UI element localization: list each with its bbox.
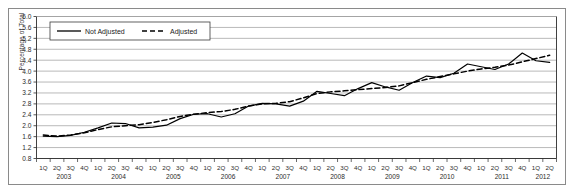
x-axis-quarter-label: 2Q: [436, 164, 444, 171]
y-axis-tick-label: 5.6: [22, 24, 31, 31]
plot-area: 0.81.21.62.02.42.83.23.64.04.44.85.25.66…: [0, 0, 574, 193]
x-axis-quarter-label: 3Q: [340, 164, 348, 171]
x-axis-year-label: 2006: [221, 173, 236, 180]
x-axis-quarter-label: 1Q: [477, 164, 485, 171]
x-axis-quarter-label: 2Q: [546, 164, 554, 171]
x-axis-quarter-label: 3Q: [395, 164, 403, 171]
x-axis-quarter-label: 4Q: [135, 164, 143, 171]
y-axis-ticks-group: 0.81.21.62.02.42.83.23.64.04.44.85.25.66…: [22, 13, 36, 162]
y-axis-tick-label: 6.0: [22, 13, 31, 20]
y-axis-tick-label: 4.8: [22, 46, 31, 53]
x-axis-year-label: 2003: [57, 173, 72, 180]
x-axis-quarter-label: 4Q: [244, 164, 252, 171]
x-axis-year-label: 2007: [275, 173, 290, 180]
x-axis-quarter-label: 1Q: [149, 164, 157, 171]
x-axis-quarter-label: 3Q: [286, 164, 294, 171]
chart-legend: Not AdjustedAdjusted: [50, 22, 210, 40]
x-axis-quarter-label: 1Q: [313, 164, 321, 171]
x-axis-quarter-label: 1Q: [422, 164, 430, 171]
legend-label-not-adjusted: Not Adjusted: [85, 28, 125, 36]
x-axis-quarter-label: 4Q: [299, 164, 307, 171]
x-axis-year-label: 2004: [111, 173, 126, 180]
chart-figure: Percentage of Total 0.81.21.62.02.42.83.…: [0, 0, 574, 193]
x-axis-quarter-label: 1Q: [203, 164, 211, 171]
x-axis-quarter-label: 3Q: [231, 164, 239, 171]
y-axis-tick-label: 1.6: [22, 133, 31, 140]
y-axis-tick-label: 2.0: [22, 122, 31, 129]
x-axis-quarter-label: 2Q: [217, 164, 225, 171]
y-axis-tick-label: 5.2: [22, 35, 31, 42]
y-axis-tick-label: 3.6: [22, 78, 31, 85]
x-axis-quarter-label: 1Q: [532, 164, 540, 171]
line-chart-svg: 0.81.21.62.02.42.83.23.64.04.44.85.25.66…: [0, 0, 574, 193]
x-axis-quarter-label: 3Q: [504, 164, 512, 171]
x-axis-year-labels-group: 2003200420052006200720082009201020112012: [57, 173, 551, 180]
x-axis-quarter-label: 4Q: [354, 164, 362, 171]
x-axis-year-label: 2010: [440, 173, 455, 180]
y-axis-tick-label: 0.8: [22, 155, 31, 162]
y-axis-tick-label: 4.0: [22, 68, 31, 75]
x-axis-quarter-label: 1Q: [94, 164, 102, 171]
x-axis-quarter-label: 2Q: [53, 164, 61, 171]
legend-label-adjusted: Adjusted: [170, 28, 197, 36]
x-axis-year-label: 2011: [495, 173, 510, 180]
x-axis-quarter-label: 3Q: [450, 164, 458, 171]
x-axis-quarter-label: 4Q: [80, 164, 88, 171]
x-axis-quarter-label: 4Q: [409, 164, 417, 171]
x-axis-quarter-label: 3Q: [121, 164, 129, 171]
y-axis-tick-label: 1.2: [22, 144, 31, 151]
x-axis-quarter-label: 4Q: [518, 164, 526, 171]
y-axis-tick-label: 4.4: [22, 57, 31, 64]
x-axis-year-label: 2005: [166, 173, 181, 180]
x-axis-quarter-label: 3Q: [67, 164, 75, 171]
x-axis-labels-group: 1Q2Q3Q4Q1Q2Q3Q4Q1Q2Q3Q4Q1Q2Q3Q4Q1Q2Q3Q4Q…: [39, 164, 554, 171]
y-axis-tick-label: 2.8: [22, 100, 31, 107]
data-series-group: [43, 53, 549, 137]
x-axis-ticks-group: [37, 159, 557, 163]
x-axis-quarter-label: 1Q: [368, 164, 376, 171]
x-axis-quarter-label: 2Q: [327, 164, 335, 171]
x-axis-quarter-label: 1Q: [258, 164, 266, 171]
y-axis-tick-label: 3.2: [22, 89, 31, 96]
x-axis-quarter-label: 1Q: [39, 164, 47, 171]
x-axis-quarter-label: 4Q: [463, 164, 471, 171]
x-axis-quarter-label: 2Q: [108, 164, 116, 171]
series-line-not-adjusted: [43, 53, 549, 137]
series-line-adjusted: [43, 55, 549, 136]
x-axis-year-label: 2009: [385, 173, 400, 180]
x-axis-quarter-label: 3Q: [176, 164, 184, 171]
y-axis-tick-label: 2.4: [22, 111, 31, 118]
x-axis-quarter-label: 2Q: [272, 164, 280, 171]
x-axis-year-label: 2012: [535, 173, 550, 180]
x-axis-quarter-label: 2Q: [381, 164, 389, 171]
x-axis-quarter-label: 2Q: [491, 164, 499, 171]
x-axis-year-label: 2008: [330, 173, 345, 180]
x-axis-quarter-label: 2Q: [162, 164, 170, 171]
x-axis-quarter-label: 4Q: [190, 164, 198, 171]
